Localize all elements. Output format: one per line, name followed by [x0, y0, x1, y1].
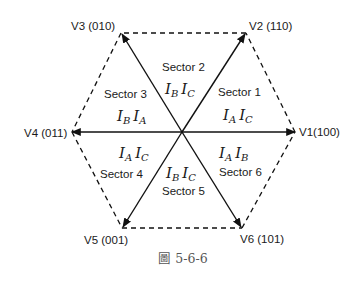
hexagon-edge-v6-v1 — [242, 132, 295, 228]
hexagon-edge-v4-v5 — [72, 132, 122, 228]
sector-4-currents: IAIC — [118, 144, 149, 163]
vector-label-v6: V6 (101) — [240, 233, 284, 245]
sector-3-currents: IBIA — [116, 107, 146, 126]
sector-label-1: Sector 1 — [218, 86, 261, 98]
vector-label-v5: V5 (001) — [84, 234, 128, 246]
sector-5-currents: IBIC — [165, 164, 196, 183]
space-vector-hexagon-diagram: V1(100) V2 (110) V3 (010) V4 (011) V5 (0… — [0, 0, 358, 282]
sector-2-currents: IBIC — [164, 80, 195, 99]
sector-label-3: Sector 3 — [104, 88, 147, 100]
vector-arrow-v3 — [122, 34, 182, 132]
sector-label-4: Sector 4 — [100, 168, 143, 180]
sector-6-currents: IAIB — [218, 144, 248, 163]
sector-label-6: Sector 6 — [219, 166, 262, 178]
vector-label-v2: V2 (110) — [249, 20, 292, 32]
sector-label-5: Sector 5 — [162, 185, 205, 197]
hexagon-edge-v3-v4 — [72, 33, 121, 132]
vector-label-v4: V4 (011) — [24, 127, 67, 139]
sector-1-currents: IAIC — [222, 106, 253, 125]
sector-label-2: Sector 2 — [162, 61, 205, 73]
vector-label-v3: V3 (010) — [71, 20, 115, 32]
hexagon-edge-v1-v2 — [246, 33, 295, 132]
vector-label-v1: V1(100) — [299, 126, 340, 138]
figure-caption: 圖 5-6-6 — [158, 251, 207, 266]
